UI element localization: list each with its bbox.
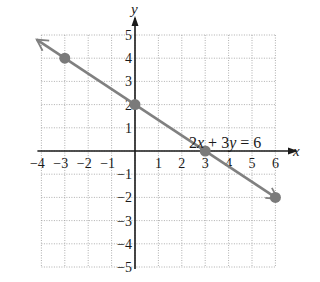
- y-tick-label: −1: [117, 167, 132, 182]
- y-tick-label: 1: [125, 121, 132, 136]
- x-tick-label: 5: [249, 156, 256, 171]
- x-tick-label: −3: [53, 156, 68, 171]
- x-tick-label: 2: [178, 156, 185, 171]
- y-tick-label: 4: [125, 51, 132, 66]
- y-tick-label: 5: [125, 28, 132, 43]
- data-point: [59, 53, 70, 64]
- x-tick-label: 3: [202, 156, 209, 171]
- y-tick-label: −5: [117, 260, 132, 275]
- y-tick-label: −2: [117, 190, 132, 205]
- x-tick-label: 1: [155, 156, 162, 171]
- y-axis-arrow-icon: [132, 16, 139, 26]
- coordinate-plane: −4−3−2−112345654321−1−2−3−4−5 x y 2x + 3…: [0, 0, 320, 282]
- data-point: [130, 99, 141, 110]
- y-tick-label: −4: [117, 237, 132, 252]
- x-tick-label: 6: [272, 156, 279, 171]
- x-tick-label: −4: [30, 156, 45, 171]
- y-tick-label: −3: [117, 214, 132, 229]
- y-tick-label: 3: [125, 74, 132, 89]
- graph-line: [37, 40, 281, 203]
- y-axis-label: y: [129, 1, 138, 17]
- data-point: [270, 192, 281, 203]
- x-tick-label: −2: [77, 156, 92, 171]
- x-axis-label: x: [292, 143, 300, 159]
- line-2x-3y-6: [37, 40, 278, 199]
- equation-label: 2x + 3y = 6: [189, 134, 261, 152]
- x-tick-label: −1: [100, 156, 115, 171]
